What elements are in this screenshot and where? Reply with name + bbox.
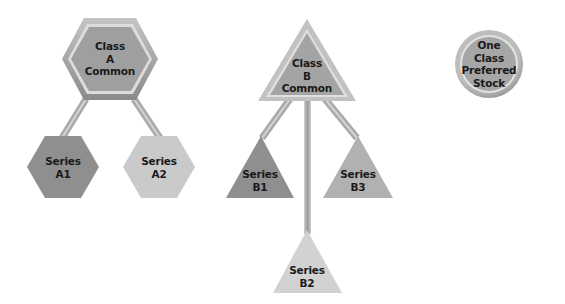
connector-class-a-to-series-a1 [62,99,86,138]
label-series-b2: Series B2 [272,264,342,289]
label-one-class-preferred-stock: One Class Preferred Stock [449,39,529,89]
label-class-b-common: Class B Common [267,57,347,95]
connector-class-a-to-series-a2 [134,99,160,138]
stock-class-diagram: Class A Common Series A1 Series A2 Class… [0,0,565,304]
connector-class-b-to-series-b3 [325,99,357,138]
label-series-a2: Series A2 [124,155,194,180]
label-class-a-common: Class A Common [70,40,150,78]
connector-class-b-to-series-b2 [304,99,311,234]
label-series-b1: Series B1 [226,168,294,193]
label-series-a1: Series A1 [28,155,98,180]
connector-class-b-to-series-b1 [262,99,290,138]
label-series-b3: Series B3 [323,168,393,193]
